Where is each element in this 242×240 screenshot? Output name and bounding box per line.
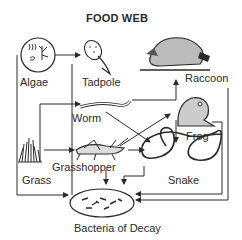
label-algae: Algae <box>20 76 48 88</box>
bacteria-icon <box>70 189 134 217</box>
worm-icon <box>80 101 130 107</box>
label-bacteria: Bacteria of Decay <box>74 222 161 234</box>
label-snake: Snake <box>168 174 199 186</box>
frog-icon <box>178 98 214 126</box>
label-tadpole: Tadpole <box>82 76 121 88</box>
label-worm: Worm <box>72 112 101 124</box>
algae-icon <box>21 38 55 72</box>
grass-icon <box>18 138 42 162</box>
tadpole-icon <box>81 37 110 74</box>
label-frog: Frog <box>186 130 209 142</box>
grasshopper-icon <box>76 138 128 160</box>
food-web-diagram <box>0 0 242 240</box>
label-grasshopper: Grasshopper <box>52 161 116 173</box>
label-raccoon: Raccoon <box>185 72 228 84</box>
raccoon-icon <box>140 38 210 70</box>
label-grass: Grass <box>22 174 51 186</box>
snake-icon <box>142 128 222 161</box>
